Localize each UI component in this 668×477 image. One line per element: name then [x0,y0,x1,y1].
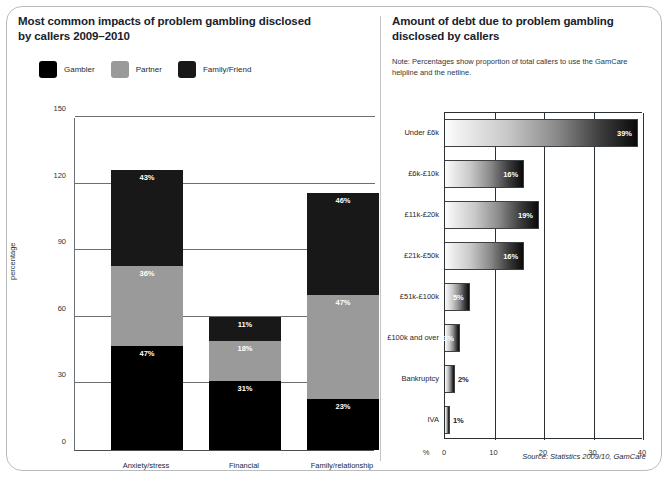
bar-segment-0-1: 36% [111,266,183,346]
right-title-line-1: Amount of debt due to problem gambling [392,14,660,29]
stacked-bar-2: 46%47%23% [307,193,379,450]
debt-bar-row-2: 19% [445,201,539,229]
debt-bar-value-1: 16% [503,170,518,179]
debt-bar-5: 3% [445,324,460,352]
debt-category-1: £6k-£10k [408,169,439,178]
panel-divider [380,16,381,461]
right-panel-title: Amount of debt due to problem gambling d… [392,14,660,44]
debt-bar-value-5: 3% [443,333,454,342]
left-title-line-1: Most common impacts of problem gambling … [18,14,376,29]
bar-segment-1-0: 31% [209,381,281,450]
bar-value-label: 31% [237,384,252,450]
debt-bar-value-2: 19% [518,211,533,220]
legend-item-gambler: Gambler [39,61,95,78]
figure-page: Most common impacts of problem gambling … [0,0,668,477]
debt-bar-value-6: 2% [458,374,469,383]
debt-bar-6: 2% [445,365,455,393]
legend-item-partner: Partner [111,61,162,78]
y-tick-0: 0 [18,437,66,446]
gridline-150 [75,116,375,117]
bar-value-label: 23% [335,402,350,450]
debt-bar-3: 16% [445,242,524,270]
bar-segment-0-0: 47% [111,346,183,450]
legend-label-gambler: Gambler [64,65,95,74]
bar-segment-2-1: 47% [307,295,379,399]
left-title-line-2: by callers 2009–2010 [18,29,376,44]
bar-value-label: 43% [139,173,154,265]
bar-value-label: 46% [335,196,350,295]
impacts-stacked-bar-chart: percentage 0306090120150 43%36%47%11%18%… [18,110,376,470]
y-tick-30: 30 [18,370,66,379]
debt-bar-value-3: 16% [503,252,518,261]
left-panel-title: Most common impacts of problem gambling … [18,14,376,44]
legend-label-partner: Partner [136,65,162,74]
bar-segment-2-2: 46% [307,193,379,295]
x-category-2: Family/relationship [288,461,396,470]
debt-category-6: Bankruptcy [401,374,439,383]
debt-category-2: £11k-£20k [405,210,439,219]
legend-item-family_friend: Family/Friend [178,61,251,78]
vgridline-20 [544,113,545,440]
right-panel: Amount of debt due to problem gambling d… [392,14,660,464]
bar-value-label: 11% [238,320,253,341]
y-axis-ticks: 0306090120150 [18,118,74,451]
bar-value-label: 18% [237,344,252,381]
debt-bar-7: 1% [445,406,450,434]
x-tick-10: 10 [480,448,508,457]
chart-legend: GamblerPartnerFamily/Friend [39,61,267,78]
debt-bar-row-1: 16% [445,160,524,188]
debt-bar-row-0: 39% [445,119,638,147]
vgridline-40 [643,113,644,440]
y-tick-90: 90 [18,237,66,246]
debt-bar-value-7: 1% [453,415,464,424]
legend-label-family_friend: Family/Friend [203,65,251,74]
stacked-bar-0: 43%36%47% [111,170,183,450]
y-tick-60: 60 [18,304,66,313]
bar-segment-0-2: 43% [111,170,183,265]
bar-value-label: 47% [139,349,154,450]
right-plot-area: 39%16%19%16%5%3%2%1% [444,112,642,439]
debt-bar-1: 16% [445,160,524,188]
right-title-line-2: disclosed by callers [392,29,660,44]
debt-bar-row-5: 3% [445,324,460,352]
debt-category-4: £51k-£100k [400,292,439,301]
bar-value-label: 36% [139,269,154,346]
debt-bar-value-4: 5% [453,292,464,301]
legend-swatch-family_friend [178,61,196,78]
bar-segment-2-0: 23% [307,399,379,450]
x-category-1: Financial [190,461,298,470]
stacked-bar-1: 11%18%31% [209,317,281,450]
chart-note: Note: Percentages show proportion of tot… [392,56,650,78]
bar-value-label: 47% [335,298,350,399]
x-category-0: Anxiety/stress [92,461,200,470]
y-tick-120: 120 [18,171,66,180]
debt-category-5: £100k and over [387,333,439,342]
debt-bar-0: 39% [445,119,638,147]
legend-swatch-gambler [39,61,57,78]
bar-segment-1-2: 11% [209,317,281,341]
source-caption: Source: Statistics 2009/10, GamCare [522,452,646,461]
left-panel: Most common impacts of problem gambling … [18,14,376,464]
left-plot-area: 43%36%47%11%18%31%46%47%23% [74,118,374,451]
debt-bar-row-4: 5% [445,283,470,311]
x-tick-0: 0 [430,448,458,457]
debt-category-0: Under £6k [404,128,439,137]
bar-segment-1-1: 18% [209,341,281,381]
debt-bar-4: 5% [445,283,470,311]
debt-category-3: £21k-£50k [404,251,439,260]
debt-bar-2: 19% [445,201,539,229]
debt-category-7: IVA [427,415,439,424]
debt-bar-row-3: 16% [445,242,524,270]
debt-bar-row-6: 2% [445,365,455,393]
vgridline-30 [594,113,595,440]
debt-bar-value-0: 39% [617,129,632,138]
y-tick-150: 150 [18,104,66,113]
y-axis-label: percentage [8,242,17,280]
debt-bar-row-7: 1% [445,406,450,434]
legend-swatch-partner [111,61,129,78]
debt-bar-chart: 39%16%19%16%5%3%2%1% Under £6k£6k-£10k£1… [392,106,660,466]
